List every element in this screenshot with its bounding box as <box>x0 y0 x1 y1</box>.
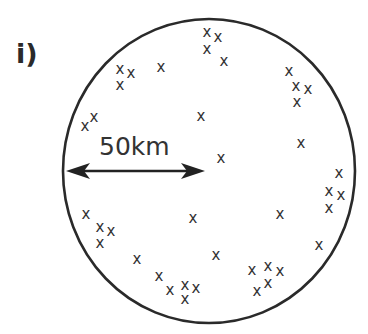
x-marker-icon: x <box>192 281 201 296</box>
x-marker-icon: x <box>325 184 334 199</box>
x-marker-icon: x <box>155 269 164 284</box>
x-marker-icon: x <box>116 78 125 93</box>
x-marker-icon: x <box>157 60 166 75</box>
x-marker-icon: x <box>166 283 175 298</box>
figure-label: i) <box>16 38 38 69</box>
x-marker-icon: x <box>81 119 90 134</box>
x-marker-icon: x <box>82 207 91 222</box>
x-marker-icon: x <box>253 284 262 299</box>
x-marker-icon: x <box>96 220 105 235</box>
x-marker-icon: x <box>203 42 212 57</box>
x-marker-icon: x <box>203 25 212 40</box>
x-marker-icon: x <box>293 95 302 110</box>
x-marker-icon: x <box>133 252 142 267</box>
x-marker-icon: x <box>264 259 273 274</box>
x-marker-icon: x <box>315 238 324 253</box>
x-marker-icon: x <box>96 236 105 251</box>
scale-label: 50km <box>99 132 170 161</box>
x-marker-icon: x <box>325 201 334 216</box>
x-marker-icon: x <box>220 54 229 69</box>
x-marker-icon: x <box>276 207 285 222</box>
x-marker-icon: x <box>181 292 190 307</box>
x-marker-icon: x <box>292 79 301 94</box>
x-marker-icon: x <box>264 276 273 291</box>
x-marker-icon: x <box>214 30 223 45</box>
x-marker-icon: x <box>127 66 136 81</box>
x-marker-icon: x <box>335 166 344 181</box>
x-marker-icon: x <box>212 248 221 263</box>
x-marker-icon: x <box>107 224 116 239</box>
x-marker-icon: x <box>337 188 346 203</box>
x-marker-icon: x <box>197 109 206 124</box>
x-marker-icon: x <box>248 263 257 278</box>
x-marker-icon: x <box>116 62 125 77</box>
x-marker-icon: x <box>276 264 285 279</box>
x-marker-icon: x <box>90 110 99 125</box>
x-marker-icon: x <box>189 211 198 226</box>
x-marker-icon: x <box>297 136 306 151</box>
x-marker-icon: x <box>304 82 313 97</box>
scale-arrow <box>66 163 205 179</box>
x-marker-icon: x <box>217 151 226 166</box>
